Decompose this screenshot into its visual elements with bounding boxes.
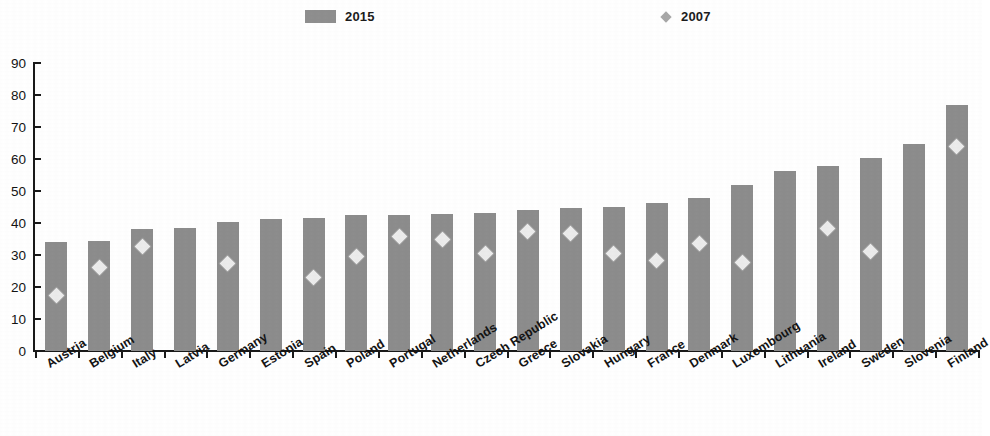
x-axis-category-labels: AustriaBelgiumItalyLatviaGermanyEstoniaS… [0, 351, 982, 436]
bar-2015 [817, 166, 839, 351]
bar-2015 [646, 203, 668, 351]
bar-2015 [217, 222, 239, 351]
bar-2015 [688, 198, 710, 351]
bar-2015 [174, 228, 196, 351]
bar-2015 [88, 241, 110, 351]
bars-and-markers [0, 0, 982, 351]
bar-2015 [603, 207, 625, 351]
bar-2015 [903, 144, 925, 351]
bar-2015 [345, 215, 367, 351]
